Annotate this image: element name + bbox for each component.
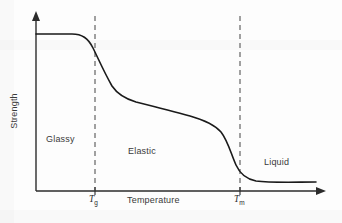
x-axis-arrowhead (316, 187, 326, 195)
chart-canvas (0, 0, 342, 223)
region-label-glassy: Glassy (46, 134, 75, 144)
region-label-liquid: Liquid (264, 157, 289, 167)
tg-subscript: g (94, 199, 98, 206)
tm-subscript: m (239, 199, 244, 206)
x-axis-label: Temperature (127, 195, 180, 205)
y-axis-label: Strength (9, 81, 19, 141)
figure-container: Glassy Elastic Liquid Temperature Streng… (0, 0, 342, 223)
y-axis-arrowhead (32, 11, 40, 21)
region-label-elastic: Elastic (128, 146, 156, 156)
tg-tick-label: Tg (89, 194, 98, 206)
tm-tick-label: Tm (234, 194, 245, 206)
